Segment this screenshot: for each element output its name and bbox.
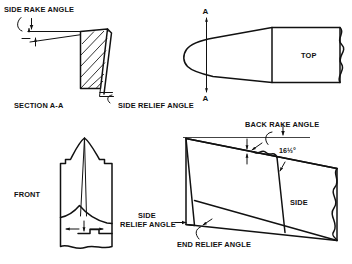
end-relief-angle-label: END RELIEF ANGLE (177, 240, 251, 249)
back-rake-arrow-diagonal (252, 143, 262, 150)
side-relief-angle-label-line1: SIDE (138, 211, 156, 220)
front-view-label: FRONT (14, 190, 41, 199)
section-body-outline (81, 29, 108, 89)
top-view-outline (184, 28, 340, 83)
section-aa-label: SECTION A-A (14, 101, 64, 110)
side-rake-angle-label: SIDE RAKE ANGLE (4, 5, 74, 14)
section-aa-view: SIDE RAKE ANGLE SECTION A-A SIDE RELIEF … (4, 5, 194, 110)
drawing-svg: SIDE RAKE ANGLE SECTION A-A SIDE RELIEF … (0, 0, 352, 264)
technical-drawing-canvas: SIDE RAKE ANGLE SECTION A-A SIDE RELIEF … (0, 0, 352, 264)
side-view: BACK RAKE ANGLE 16½° SIDE SIDE RELIEF AN… (120, 120, 337, 249)
side-relief-angle-label-top: SIDE RELIEF ANGLE (118, 101, 194, 110)
front-view: FRONT (14, 138, 112, 248)
back-rake-angle-label: BACK RAKE ANGLE (245, 120, 319, 129)
top-view: A A TOP (184, 7, 344, 103)
section-mark-a-bottom: A (203, 94, 209, 103)
side-view-label: SIDE (290, 198, 308, 207)
side-rake-leader-curve (18, 18, 22, 32)
back-rake-leader-curve (266, 132, 272, 145)
top-view-label: TOP (301, 51, 317, 60)
side-relief-angle-label-line2: RELIEF ANGLE (120, 220, 176, 229)
back-rake-value-label: 16½° (279, 146, 296, 155)
end-relief-leader-curve (196, 227, 200, 239)
section-mark-a-top: A (203, 7, 209, 16)
